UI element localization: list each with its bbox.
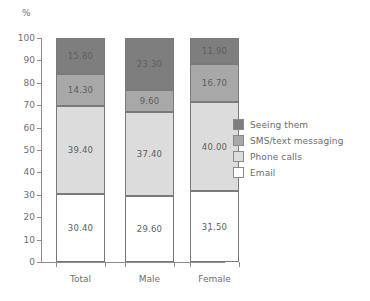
x-tick-mark (190, 262, 191, 267)
bar-segment-value-label: 23.30 (137, 59, 162, 69)
x-tick-mark (174, 262, 175, 267)
bar-segment-value-label: 15.80 (68, 51, 93, 61)
x-tick-mark (239, 262, 240, 267)
y-tick-label: 60 (24, 123, 35, 133)
category-label-male: Male (139, 274, 160, 284)
category-label-female: Female (198, 274, 231, 284)
bar-segment[interactable]: 39.40 (56, 106, 105, 194)
legend-swatch-icon (233, 167, 244, 178)
bar-segment[interactable]: 40.00 (190, 102, 239, 192)
y-tick-label: 0 (29, 257, 35, 267)
bar-segment[interactable]: 29.60 (125, 196, 174, 262)
x-tick-mark (56, 262, 57, 267)
y-tick-label: 50 (24, 145, 35, 155)
bar-segment[interactable]: 30.40 (56, 194, 105, 262)
legend-item-label: Phone calls (250, 152, 302, 162)
legend-swatch-icon (233, 151, 244, 162)
y-tick-label: 40 (24, 167, 35, 177)
bar-segment[interactable]: 37.40 (125, 112, 174, 196)
bar-male[interactable]: 29.6037.409.6023.30 (125, 38, 174, 262)
bar-segment[interactable]: 31.50 (190, 191, 239, 262)
legend-item[interactable]: Seeing them (233, 118, 343, 131)
y-tick-mark (37, 217, 41, 218)
bar-total[interactable]: 30.4039.4014.3015.80 (56, 38, 105, 262)
legend-item[interactable]: Phone calls (233, 150, 343, 163)
bar-segment-value-label: 16.70 (202, 78, 227, 88)
x-axis-line (41, 262, 225, 263)
legend-swatch-icon (233, 135, 244, 146)
y-tick-mark (37, 83, 41, 84)
y-tick-mark (37, 195, 41, 196)
y-tick-label: 10 (24, 235, 35, 245)
bar-segment-value-label: 29.60 (137, 224, 162, 234)
bar-segment-value-label: 39.40 (68, 145, 93, 155)
legend-item[interactable]: SMS/text messaging (233, 134, 343, 147)
image-speck (208, 230, 210, 232)
y-tick-mark (37, 105, 41, 106)
y-axis-line (41, 38, 42, 262)
bar-segment[interactable]: 15.80 (56, 38, 105, 73)
y-tick-mark (37, 38, 41, 39)
legend-item-label: SMS/text messaging (250, 136, 343, 146)
legend-item-label: Seeing them (250, 120, 308, 130)
bar-segment-value-label: 11.90 (202, 46, 227, 56)
y-tick-mark (37, 172, 41, 173)
y-tick-mark (37, 240, 41, 241)
bar-segment[interactable]: 14.30 (56, 74, 105, 106)
y-tick-mark (37, 60, 41, 61)
legend-item[interactable]: Email (233, 166, 343, 179)
y-tick-mark (37, 150, 41, 151)
y-tick-label: 70 (24, 100, 35, 110)
bar-segment[interactable]: 23.30 (125, 38, 174, 90)
bar-segment-value-label: 30.40 (68, 223, 93, 233)
bar-segment-value-label: 31.50 (202, 222, 227, 232)
bar-segment-value-label: 40.00 (202, 142, 227, 152)
bar-segment[interactable]: 16.70 (190, 64, 239, 101)
x-tick-mark (105, 262, 106, 267)
legend-item-label: Email (250, 168, 275, 178)
y-axis-unit-label: % (22, 8, 31, 18)
bar-female[interactable]: 31.5040.0016.7011.90 (190, 38, 239, 262)
bar-segment-value-label: 14.30 (68, 85, 93, 95)
bar-segment-value-label: 37.40 (137, 149, 162, 159)
y-tick-mark (37, 262, 41, 263)
x-tick-mark (125, 262, 126, 267)
bar-segment[interactable]: 11.90 (190, 38, 239, 65)
y-tick-label: 30 (24, 190, 35, 200)
y-tick-label: 90 (24, 55, 35, 65)
legend: Seeing themSMS/text messagingPhone calls… (233, 118, 343, 179)
bar-segment-value-label: 9.60 (140, 96, 160, 106)
y-tick-label: 100 (18, 33, 35, 43)
stacked-bar-chart: % 1009080706050403020100 30.4039.4014.30… (0, 0, 370, 301)
category-label-total: Total (70, 274, 91, 284)
y-tick-label: 20 (24, 212, 35, 222)
legend-swatch-icon (233, 119, 244, 130)
y-tick-mark (37, 128, 41, 129)
plot-area: 1009080706050403020100 30.4039.4014.3015… (41, 38, 225, 262)
bar-segment[interactable]: 9.60 (125, 90, 174, 112)
y-tick-label: 80 (24, 78, 35, 88)
